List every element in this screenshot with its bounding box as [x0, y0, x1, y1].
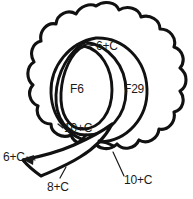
figure-canvas: F6 F29 6+C 10+C 6+C 8+C 10+C [0, 0, 193, 199]
callout-bottom-right-10c: 10+C [124, 174, 152, 186]
callout-bottom-inner-10c: 10+C [64, 122, 92, 134]
leader-line-bottom-right [113, 152, 124, 176]
callout-left-6c: 6+C [3, 151, 25, 163]
flower-line-drawing [0, 0, 193, 199]
part-label-f6: F6 [70, 83, 84, 95]
callout-top-6c: 6+C [96, 40, 118, 52]
callout-stem-8c: 8+C [47, 181, 69, 193]
part-label-f29: F29 [124, 83, 144, 95]
